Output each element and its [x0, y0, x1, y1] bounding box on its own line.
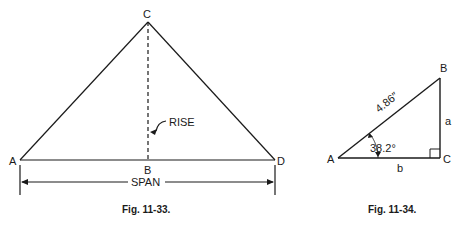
- caption-fig-11-34: Fig. 11-34.: [368, 204, 417, 215]
- label-C: C: [443, 153, 451, 165]
- label-A: A: [327, 153, 335, 165]
- span-left-arrow-icon: [21, 179, 28, 185]
- label-side-b: b: [397, 162, 403, 174]
- label-c: C: [143, 8, 151, 20]
- label-hypotenuse: 4.86″: [373, 89, 400, 114]
- rise-leader-curve: [156, 121, 166, 131]
- label-span: SPAN: [131, 176, 160, 188]
- span-right-arrow-icon: [267, 179, 274, 185]
- caption-fig-11-33: Fig. 11-33.: [122, 204, 171, 215]
- label-B: B: [440, 62, 447, 74]
- label-angle: 38.2°: [370, 142, 396, 154]
- right-angle-marker-icon: [430, 149, 440, 158]
- label-a: A: [9, 155, 17, 167]
- roof-right-edge: [148, 22, 275, 160]
- label-b: B: [144, 164, 151, 176]
- diagram-canvas: C A B D RISE SPAN Fig. 11-33. A B C a b …: [0, 0, 459, 228]
- label-side-a: a: [445, 115, 452, 127]
- roof-left-edge: [20, 22, 148, 160]
- rise-arrowhead-icon: [150, 129, 157, 135]
- label-d: D: [277, 155, 285, 167]
- label-rise: RISE: [169, 116, 195, 128]
